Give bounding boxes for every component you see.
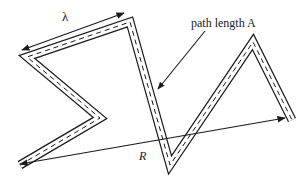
wavelength-label: λ bbox=[62, 9, 69, 24]
path-inner-fill bbox=[20, 22, 292, 165]
distance-label: R bbox=[138, 149, 147, 163]
path-length-label: path length A bbox=[191, 16, 256, 30]
zigzag-path-diagram: λ path length A R bbox=[0, 0, 304, 182]
path-length-pointer-arrow bbox=[158, 31, 205, 89]
zigzag-path bbox=[20, 22, 292, 165]
